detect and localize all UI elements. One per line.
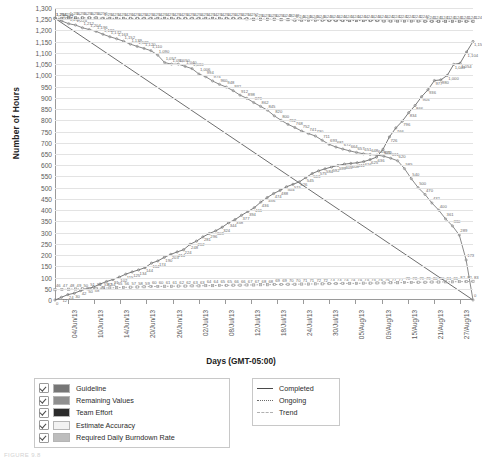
data-point-label: 70 xyxy=(289,278,294,283)
y-tick-label: 950 xyxy=(41,83,52,90)
data-point-label: 68 xyxy=(268,279,273,284)
gridline xyxy=(55,30,473,31)
x-tick-mark xyxy=(68,300,69,304)
data-point xyxy=(232,284,234,286)
y-tick-label: 1,250 xyxy=(35,16,52,23)
data-point xyxy=(431,20,433,22)
data-point-label: 0 xyxy=(474,293,477,298)
data-point-label: 47 xyxy=(63,283,68,288)
gridline xyxy=(55,143,473,144)
data-point-label: 60 xyxy=(152,280,157,285)
data-point-label: 66 xyxy=(241,279,246,284)
gridline xyxy=(55,154,473,155)
data-point-label: 67 xyxy=(255,279,260,284)
gridline xyxy=(55,210,473,211)
legend-checkbox[interactable] xyxy=(39,396,49,406)
y-tick-label: 850 xyxy=(41,106,52,113)
y-tick-label: 200 xyxy=(41,252,52,259)
data-point xyxy=(438,281,440,283)
data-point-label: 71 xyxy=(310,278,315,283)
data-point xyxy=(294,283,296,285)
legend-color-swatch xyxy=(53,421,70,430)
data-point-label: 70 xyxy=(296,278,301,283)
gridline xyxy=(55,176,473,177)
data-point xyxy=(150,285,152,287)
gridline xyxy=(55,255,473,256)
data-point xyxy=(328,283,330,285)
data-point xyxy=(225,284,227,286)
gridline xyxy=(55,278,473,279)
y-tick-label: 1,200 xyxy=(35,27,52,34)
data-point xyxy=(321,283,323,285)
data-point-label: 53 xyxy=(104,282,109,287)
data-point-label: 980 xyxy=(442,80,450,85)
data-point xyxy=(198,285,200,287)
x-tick-label: 02/Jul/13 xyxy=(202,310,209,336)
data-point xyxy=(143,286,145,288)
x-tick-label: 14/Jun/13 xyxy=(123,310,130,338)
data-point-label: 834 xyxy=(410,113,418,118)
data-point-label: 54 xyxy=(111,282,116,287)
legend-style-label: Trend xyxy=(279,409,298,416)
legend-series[interactable]: GuidelineRemaining ValuesTeam EffortEsti… xyxy=(34,378,230,448)
data-point-label: 436 xyxy=(262,203,270,208)
data-point-label: 400 xyxy=(440,204,448,209)
legend-item-required-daily-burndown-rate[interactable]: Required Daily Burndown Rate xyxy=(39,432,225,444)
gridline xyxy=(55,132,473,133)
legend-checkbox[interactable] xyxy=(39,408,49,418)
x-tick-label: 12/Jul/13 xyxy=(254,310,261,336)
data-point-label: 57 xyxy=(131,281,136,286)
burndown-chart: Number of Hours 1,3001,2501,2001,1501,10… xyxy=(0,0,482,464)
gridline xyxy=(55,188,473,189)
x-tick-mark xyxy=(277,300,278,304)
data-point-label: 1,241 xyxy=(474,15,482,20)
data-point-label: 69 xyxy=(275,278,280,283)
x-tick-mark xyxy=(434,300,435,304)
data-point-label: 46 xyxy=(56,283,61,288)
gridline xyxy=(55,266,473,267)
gridline xyxy=(55,165,473,166)
data-point xyxy=(390,20,392,22)
data-point xyxy=(383,282,385,284)
data-point-label: 61 xyxy=(166,280,171,285)
data-point-label: 65 xyxy=(227,279,232,284)
legend-checkbox[interactable] xyxy=(39,433,49,443)
legend-item-estimate-accuracy[interactable]: Estimate Accuracy xyxy=(39,419,225,431)
data-point xyxy=(246,284,248,286)
legend-item-team-effort[interactable]: Team Effort xyxy=(39,407,225,419)
chart-grid: 1,2541,2541,2561,2561,2561,2561,2561,254… xyxy=(55,8,473,300)
x-tick-label: 05/Aug/13 xyxy=(358,310,365,339)
legend-label: Remaining Values xyxy=(76,397,134,404)
data-point-label: 726 xyxy=(390,138,398,143)
y-tick-label: 0 xyxy=(48,297,52,304)
y-tick-label: 700 xyxy=(41,139,52,146)
x-tick-label: 18/Jul/13 xyxy=(280,310,287,336)
data-point-label: 83 xyxy=(474,275,479,280)
legend-item-remaining-values[interactable]: Remaining Values xyxy=(39,394,225,406)
legend-checkbox[interactable] xyxy=(39,383,49,393)
legend-style-trend[interactable]: Trend xyxy=(257,407,335,419)
legend-style-ongoing[interactable]: Ongoing xyxy=(257,394,335,406)
data-point-label: 62 xyxy=(186,280,191,285)
data-point xyxy=(390,282,392,284)
legend-checkbox[interactable] xyxy=(39,420,49,430)
gridline xyxy=(55,19,473,20)
legend-style-completed[interactable]: Completed xyxy=(257,382,335,394)
x-tick-mark xyxy=(460,300,461,304)
y-tick-label: 1,050 xyxy=(35,61,52,68)
data-point xyxy=(438,20,440,22)
y-tick-label: 650 xyxy=(41,151,52,158)
x-tick-mark xyxy=(408,300,409,304)
data-point-label: 24 xyxy=(69,295,74,300)
x-tick-mark xyxy=(329,300,330,304)
data-point xyxy=(184,285,186,287)
legend-item-guideline[interactable]: Guideline xyxy=(39,382,225,394)
plot-area: Number of Hours 1,3001,2501,2001,1501,10… xyxy=(0,0,482,318)
data-point-label: 65 xyxy=(220,279,225,284)
data-point-label: 55 xyxy=(118,281,123,286)
data-point-label: 526 xyxy=(300,182,308,187)
data-point xyxy=(239,284,241,286)
data-point-label: 61 xyxy=(172,280,177,285)
legend-line-styles[interactable]: CompletedOngoingTrend xyxy=(252,378,340,426)
gridline xyxy=(55,64,473,65)
